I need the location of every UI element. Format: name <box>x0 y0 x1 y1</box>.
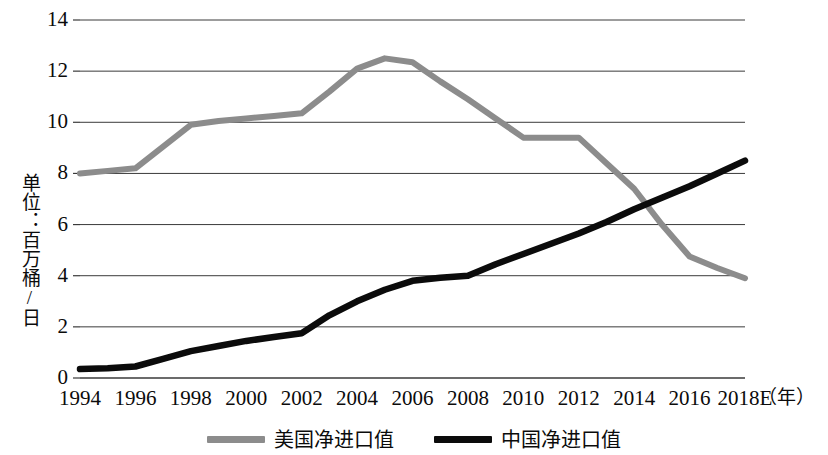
legend-swatch-china <box>434 436 492 443</box>
legend-label-us: 美国净进口值 <box>274 429 394 451</box>
x-tick-label: 2004 <box>336 386 378 410</box>
x-tick-label: 1996 <box>114 386 156 410</box>
x-tick-label: 2002 <box>281 386 323 410</box>
y-tick-marks <box>73 20 80 378</box>
x-tick-label: 2012 <box>558 386 600 410</box>
chart-figure: 单位：百万桶/日 02468101214 1994199619982000200… <box>0 0 828 455</box>
data-series-layer <box>80 58 745 369</box>
legend-swatch-us <box>207 436 265 443</box>
legend-item-us: 美国净进口值 <box>207 429 394 451</box>
x-tick-label: 2014 <box>613 386 655 410</box>
x-axis-tick-labels: 1994199619982000200220042006200820102012… <box>0 386 828 416</box>
series-line-china <box>80 161 745 369</box>
x-tick-label: 2008 <box>447 386 489 410</box>
chart-legend: 美国净进口值 中国净进口值 <box>0 424 828 455</box>
x-tick-label: 1998 <box>170 386 212 410</box>
legend-label-china: 中国净进口值 <box>501 429 621 451</box>
x-tick-label: 1994 <box>59 386 101 410</box>
series-line-us <box>80 58 745 278</box>
x-tick-label: 2016 <box>669 386 711 410</box>
x-tick-label: 2006 <box>392 386 434 410</box>
x-axis-unit-label: （年） <box>758 386 815 410</box>
legend-item-china: 中国净进口值 <box>434 429 621 451</box>
x-tick-label: 2010 <box>502 386 544 410</box>
x-tick-label: 2000 <box>225 386 267 410</box>
